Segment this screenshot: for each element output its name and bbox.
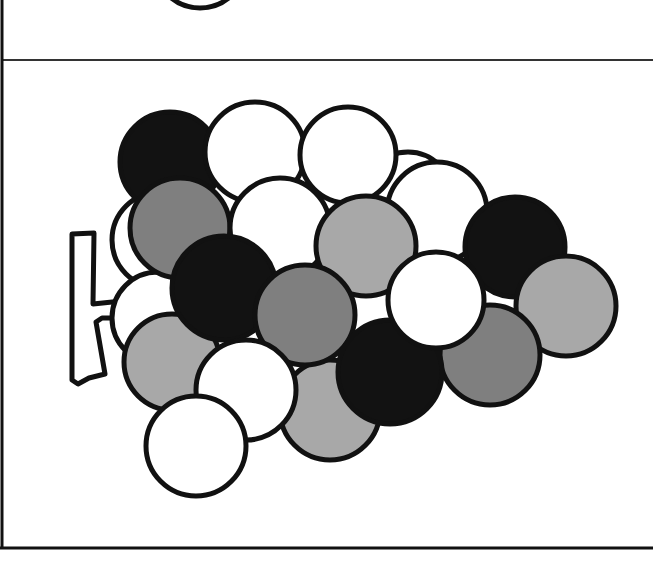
- grape-icon: [146, 396, 246, 496]
- grape-icon: [388, 252, 484, 348]
- grapes-illustration: [0, 0, 653, 572]
